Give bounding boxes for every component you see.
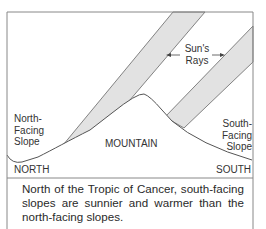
north-facing-line1: North- — [14, 113, 44, 125]
suns-rays-label-line1: Sun's — [182, 43, 212, 55]
north-facing-line2: Facing — [14, 125, 44, 137]
south-facing-line2: Facing — [222, 130, 252, 142]
north-facing-slope-label: North- Facing Slope — [14, 113, 44, 148]
north-label: NORTH — [14, 164, 49, 176]
suns-rays-label-line2: Rays — [182, 55, 212, 67]
south-label: SOUTH — [216, 164, 251, 176]
sun-slope-diagram: Sun's Rays North- Facing Slope South- Fa… — [0, 0, 266, 229]
caption: North of the Tropic of Cancer, south-fac… — [22, 182, 244, 224]
north-facing-line3: Slope — [14, 136, 44, 148]
suns-rays-label: Sun's Rays — [182, 43, 212, 66]
south-facing-line3: Slope — [222, 141, 252, 153]
south-facing-slope-label: South- Facing Slope — [222, 118, 252, 153]
south-facing-line1: South- — [222, 118, 252, 130]
mountain-label: MOUNTAIN — [105, 138, 158, 150]
